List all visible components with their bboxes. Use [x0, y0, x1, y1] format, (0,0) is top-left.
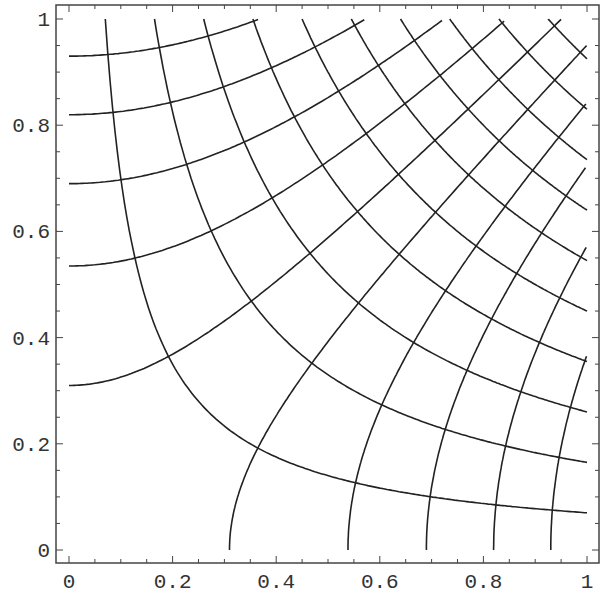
- y-tick-label: 0.6: [12, 221, 50, 244]
- y-tick-label: 0.8: [12, 115, 50, 138]
- curve-xy-level: [548, 19, 587, 59]
- curve-xy-level: [302, 19, 587, 311]
- x-tick-label: 0.4: [257, 571, 295, 594]
- axis-ticks: [56, 5, 599, 563]
- x-tick-label: 1: [581, 571, 594, 594]
- curve-xy-level: [351, 19, 587, 261]
- y-tick-label: 1: [37, 9, 50, 32]
- curve-xy-level: [105, 19, 587, 513]
- curve-hyperbola-level: [69, 19, 561, 385]
- plot-frame: [56, 5, 599, 563]
- y-tick-label: 0.4: [12, 328, 50, 351]
- curve-xy-level: [253, 19, 587, 362]
- contour-plot: 00.20.40.60.81 00.20.40.60.81: [0, 0, 603, 598]
- x-tick-label: 0.2: [154, 571, 192, 594]
- plot-curves: [69, 19, 587, 550]
- curve-xy-level: [499, 19, 587, 109]
- curve-hyperbola-level: [348, 104, 586, 550]
- curve-hyperbola-level: [551, 356, 587, 550]
- y-tick-label: 0.2: [12, 434, 50, 457]
- curve-xy-level: [155, 19, 588, 462]
- x-axis-tick-labels: 00.20.40.60.81: [63, 571, 594, 594]
- curve-xy-level: [450, 19, 587, 160]
- x-tick-label: 0.8: [464, 571, 502, 594]
- curve-hyperbola-level: [230, 46, 587, 550]
- curve-xy-level: [401, 19, 588, 210]
- y-tick-label: 0: [37, 540, 50, 563]
- curve-hyperbola-level: [69, 20, 258, 57]
- x-tick-label: 0.6: [361, 571, 399, 594]
- y-axis-tick-labels: 00.20.40.60.81: [12, 9, 50, 563]
- curve-xy-level: [204, 19, 587, 412]
- x-tick-label: 0: [63, 571, 76, 594]
